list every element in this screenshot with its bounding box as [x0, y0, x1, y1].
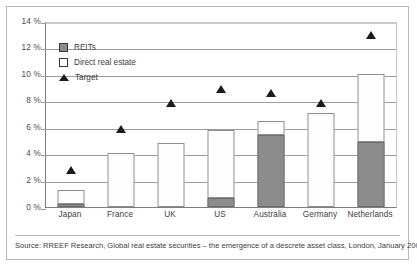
stacked-bar[interactable] [258, 121, 285, 207]
y-axis-tick-mark [41, 76, 46, 77]
y-axis-tick-mark [41, 102, 46, 103]
bar-segment-direct-real-estate[interactable] [358, 74, 385, 142]
y-axis-tick-label: 6 % [7, 124, 41, 132]
triangle-marker-icon [59, 74, 69, 81]
y-axis-tick-label: 2 % [7, 177, 41, 185]
stacked-bar[interactable] [208, 130, 235, 207]
target-marker [316, 99, 326, 107]
y-axis-tick-mark [41, 23, 46, 24]
bar-segment-direct-real-estate[interactable] [158, 143, 185, 207]
source-divider [15, 235, 400, 236]
bar-segment-direct-real-estate[interactable] [308, 113, 335, 207]
stacked-bar[interactable] [358, 73, 385, 207]
bar-segment-direct-real-estate[interactable] [208, 130, 235, 198]
x-axis-tick-label: Netherlands [347, 210, 392, 219]
gridline [46, 23, 396, 24]
bar-segment-direct-real-estate[interactable] [58, 190, 85, 203]
y-axis-tick-mark [41, 129, 46, 130]
legend-label-reits: REITs [74, 43, 96, 52]
legend-item-reits: REITs [59, 40, 179, 55]
x-axis-tick-label: UK [164, 210, 176, 219]
x-axis-tick-label: Australia [254, 210, 287, 219]
bar-segment-reits[interactable] [258, 135, 285, 207]
y-axis-tick-label: 8 % [7, 97, 41, 105]
x-axis-tick-label: US [214, 210, 226, 219]
y-axis-tick-label: 4 % [7, 150, 41, 158]
legend-label-target: Target [75, 73, 98, 82]
target-marker [66, 166, 76, 174]
x-axis-tick-label: Japan [59, 210, 82, 219]
legend-item-direct-real-estate: Direct real estate [59, 55, 179, 70]
outline-square-swatch-icon [59, 58, 68, 67]
legend-item-target: Target [59, 70, 179, 85]
y-axis-tick-label: 12 % [7, 44, 41, 52]
chart-area: 0 %2 %4 %6 %8 %10 %12 %14 % REITs Direct… [7, 7, 408, 235]
bar-segment-reits[interactable] [208, 198, 235, 207]
target-marker [166, 99, 176, 107]
legend-label-direct-real-estate: Direct real estate [74, 58, 136, 67]
gridline [46, 102, 396, 103]
target-marker [266, 89, 276, 97]
target-marker [116, 125, 126, 133]
y-axis-tick-mark [41, 49, 46, 50]
bar-segment-reits[interactable] [58, 204, 85, 207]
chart-figure-frame: 0 %2 %4 %6 %8 %10 %12 %14 % REITs Direct… [6, 6, 409, 260]
x-axis: JapanFranceUKUSAustraliaGermanyNetherlan… [45, 210, 397, 226]
y-axis-tick-mark [41, 182, 46, 183]
y-axis: 0 %2 %4 %6 %8 %10 %12 %14 % [7, 22, 41, 208]
bar-segment-direct-real-estate[interactable] [108, 153, 135, 207]
chart-legend: REITs Direct real estate Target [59, 40, 179, 85]
stacked-bar[interactable] [58, 190, 85, 207]
target-marker [366, 31, 376, 39]
x-axis-tick-label: Germany [303, 210, 337, 219]
y-axis-tick-mark [41, 155, 46, 156]
stacked-bar[interactable] [308, 113, 335, 207]
y-axis-tick-label: 10 % [7, 71, 41, 79]
y-axis-tick-label: 0 % [7, 204, 41, 212]
bar-segment-direct-real-estate[interactable] [258, 121, 285, 135]
target-marker [216, 85, 226, 93]
source-note: Source: RREEF Research, Global real esta… [15, 241, 403, 251]
stacked-bar[interactable] [108, 153, 135, 207]
stacked-bar[interactable] [158, 143, 185, 207]
x-axis-tick-label: France [107, 210, 133, 219]
filled-square-swatch-icon [59, 43, 68, 52]
y-axis-tick-label: 14 % [7, 18, 41, 26]
bar-segment-reits[interactable] [358, 142, 385, 207]
